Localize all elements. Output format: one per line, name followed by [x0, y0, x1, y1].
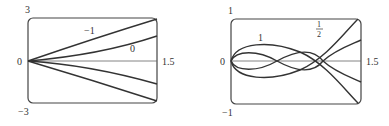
- right-curve-label-half: 1 2: [316, 20, 323, 39]
- right-origin-label: 0: [220, 56, 225, 67]
- left-xmax-label: 1.5: [162, 56, 175, 67]
- right-ymax-label: 1: [228, 5, 233, 16]
- left-curve-label-0: 0: [130, 43, 135, 54]
- left-ymin-label: −3: [18, 106, 29, 117]
- right-curve-half-lower: [231, 52, 361, 82]
- left-curve-label-neg1: −1: [84, 25, 95, 36]
- left-ymax-label: 3: [25, 4, 30, 15]
- left-curve-neg1-lower: [28, 61, 157, 101]
- right-chart: 1 −1 0 1.5 1 1 2: [220, 5, 379, 118]
- right-curve-label-1: 1: [258, 32, 263, 43]
- right-curve-half-upper: [231, 40, 361, 70]
- left-origin-label: 0: [17, 56, 22, 67]
- right-plot-frame: [231, 19, 361, 104]
- right-ymin-label: −1: [222, 107, 233, 118]
- half-numerator: 1: [317, 20, 321, 29]
- right-xmax-label: 1.5: [366, 56, 379, 67]
- figure: 3 −3 0 1.5 −1 0 1 −1 0 1.5 1 1 2: [0, 0, 389, 126]
- half-denominator: 2: [317, 30, 321, 39]
- left-chart: 3 −3 0 1.5 −1 0: [17, 4, 175, 117]
